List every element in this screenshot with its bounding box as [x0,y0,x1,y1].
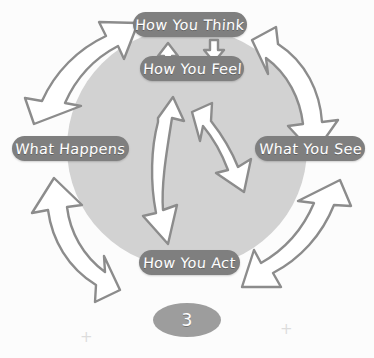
node-what-you-see[interactable]: What You See [255,136,365,161]
node-how-you-feel[interactable]: How You Feel [140,56,244,81]
node-label-feel: How You Feel [142,61,242,77]
registration-crosshair-right: + [280,322,293,337]
node-label-see: What You See [258,141,362,157]
node-how-you-think[interactable]: How You Think [133,12,247,37]
node-what-happens[interactable]: What Happens [12,136,129,161]
page-number-text: 3 [182,310,193,330]
node-how-you-act[interactable]: How You Act [139,250,240,275]
node-label-happens: What Happens [15,141,126,157]
node-label-think: How You Think [135,17,246,33]
registration-crosshair-left: + [80,330,93,345]
page-canvas: How You Think How You Feel What You See … [0,0,374,358]
node-label-act: How You Act [143,255,237,271]
page-number-badge: 3 [153,303,221,337]
